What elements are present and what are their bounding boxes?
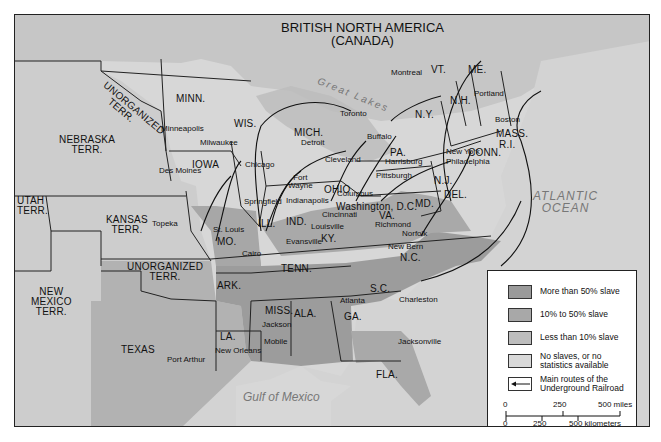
state-texas: TEXAS (121, 345, 155, 355)
state-nj: N.J. (434, 176, 453, 186)
city-charleston: Charleston (399, 296, 438, 304)
state-ri: R.I. (499, 140, 515, 150)
canada-label: BRITISH NORTH AMERICA (CANADA) (281, 21, 444, 47)
city-st-louis: St. Louis (213, 226, 244, 234)
state-kansas: KANSASTERR. (106, 215, 148, 235)
legend-label: 10% to 50% slave (540, 310, 608, 319)
city-louisville: Louisville (311, 223, 344, 231)
city-springfield: Springfield (244, 198, 282, 206)
scale-km-250: 250 (533, 419, 546, 427)
city-new-bern: New Bern (388, 243, 423, 251)
legend-label: More than 50% slave (540, 287, 620, 296)
legend-item-10-to-50: 10% to 50% slave (508, 308, 608, 322)
route-arrow-icon (508, 377, 532, 391)
city-jackson: Jackson (262, 321, 291, 329)
city-harrisburg: Harrisburg (385, 158, 422, 166)
state-ill: ILL. (258, 219, 275, 229)
city-portland: Portland (474, 90, 504, 98)
city-philadelphia: Philadelphia (446, 158, 490, 166)
legend-item-more-than-50: More than 50% slave (508, 285, 620, 299)
map-frame: BRITISH NORTH AMERICA (CANADA) Great Lak… (14, 14, 650, 427)
label-line: Underground Railroad (540, 384, 624, 393)
state-sc: S.C. (370, 284, 390, 294)
state-minn: MINN. (176, 94, 205, 104)
city-fort-wayne: FortWayne (288, 174, 313, 190)
city-new-york: New York (446, 148, 480, 156)
state-me: ME. (468, 65, 486, 75)
legend-swatch (508, 354, 532, 368)
city-detroit: Detroit (301, 139, 325, 147)
legend-item-less-than-10: Less than 10% slave (508, 331, 618, 345)
state-wis: WIS. (234, 119, 256, 129)
city-pittsburgh: Pittsburgh (376, 172, 412, 180)
state-utah: UTAHTERR. (17, 196, 48, 216)
city-new-orleans: New Orleans (215, 347, 261, 355)
label-line: TERR. (127, 272, 203, 282)
city-norfolk: Norfolk (402, 230, 427, 238)
state-mich: MICH. (294, 128, 323, 138)
legend-swatch (508, 331, 532, 345)
city-buffalo: Buffalo (367, 133, 392, 141)
city-cairo: Cairo (242, 250, 261, 258)
city-columbus: Columbus (337, 190, 373, 198)
legend-item-no-slaves: No slaves, or nostatistics available (508, 352, 609, 371)
state-mass: MASS. (496, 129, 528, 139)
label-line: TERR. (106, 225, 148, 235)
city-jacksonville: Jacksonville (398, 338, 441, 346)
label-line: statistics available (540, 361, 609, 370)
label-line: Wayne (288, 182, 313, 190)
city-chicago: Chicago (245, 161, 274, 169)
legend: More than 50% slave 10% to 50% slave Les… (487, 270, 637, 427)
region-subtitle: (CANADA) (281, 34, 444, 47)
city-montreal: Montreal (391, 69, 422, 77)
state-fla: FLA. (376, 370, 398, 380)
state-ind: IND. (286, 217, 307, 227)
city-cincinnati: Cincinnati (322, 211, 357, 219)
label-line: TERR. (31, 307, 72, 317)
state-ny: N.Y. (415, 110, 434, 120)
legend-item-railroad: Main routes of theUnderground Railroad (508, 375, 624, 394)
city-evansville: Evansville (286, 238, 322, 246)
state-del: DEL. (444, 190, 467, 200)
city-minneapolis: Minneapolis (161, 125, 204, 133)
label-line: TERR. (59, 145, 115, 155)
atlantic-ocean-label: ATLANTIC OCEAN (533, 190, 598, 214)
state-nh: N.H. (450, 96, 471, 106)
atlantic-line2: OCEAN (533, 202, 598, 214)
legend-label: Main routes of theUnderground Railroad (540, 375, 624, 394)
city-port-arthur: Port Arthur (167, 356, 205, 364)
city-atlanta: Atlanta (340, 297, 365, 305)
city-cleveland: Cleveland (325, 156, 361, 164)
legend-swatch (508, 308, 532, 322)
label-line: TERR. (17, 206, 48, 216)
state-ala: ALA. (294, 309, 316, 319)
legend-label: Less than 10% slave (540, 333, 618, 342)
state-vt: VT. (431, 65, 446, 75)
scale-km-500: 500 kilometers (569, 419, 621, 427)
state-ark: ARK. (217, 281, 241, 291)
city-richmond: Richmond (375, 221, 411, 229)
city-topeka: Topeka (152, 220, 178, 228)
scale-km-0: 0 (503, 419, 507, 427)
state-ga: GA. (344, 312, 362, 322)
state-md: MD. (415, 199, 434, 209)
state-unorganized-south: UNORGANIZEDTERR. (127, 262, 203, 282)
city-toronto: Toronto (340, 110, 367, 118)
state-new-mexico: NEWMEXICOTERR. (31, 287, 72, 317)
state-la: LA. (220, 332, 236, 342)
state-nebraska: NEBRASKATERR. (59, 135, 115, 155)
city-boston: Boston (495, 116, 520, 124)
city-mobile: Mobile (264, 338, 288, 346)
state-miss: MISS. (265, 306, 293, 316)
state-mo: MO. (217, 237, 237, 247)
state-tenn: TENN. (281, 264, 312, 274)
legend-swatch (508, 285, 532, 299)
city-milwaukee: Milwaukee (200, 139, 238, 147)
city-indianapolis: Indianapolis (286, 197, 329, 205)
city-des-moines: Des Moines (159, 167, 201, 175)
state-nc: N.C. (400, 253, 421, 263)
state-ky: KY. (321, 234, 336, 244)
legend-label: No slaves, or nostatistics available (540, 352, 609, 371)
gulf-label: Gulf of Mexico (243, 391, 320, 403)
